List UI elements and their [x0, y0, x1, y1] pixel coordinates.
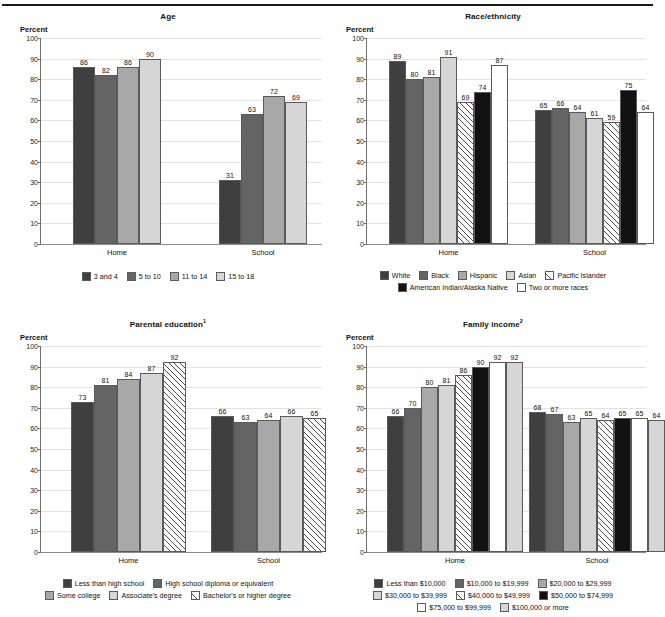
bar: 61 — [586, 118, 603, 244]
legend-label: Bachelor's or higher degree — [203, 591, 291, 600]
legend-item[interactable]: 15 to 18 — [216, 272, 254, 281]
bar-value-label: 68 — [534, 404, 542, 411]
legend-label: $100,000 or more — [512, 603, 569, 612]
legend-item[interactable]: $30,000 to $39,999 — [373, 591, 447, 600]
y-axis-tick-mark — [364, 428, 367, 429]
y-axis-tick-mark — [38, 59, 41, 60]
legend-swatch — [170, 272, 179, 281]
bar-value-label: 89 — [394, 53, 402, 60]
y-axis-tick-label: 90 — [30, 55, 38, 62]
legend-swatch — [545, 271, 554, 280]
legend-swatch — [109, 591, 118, 600]
bar-value-label: 92 — [171, 354, 179, 361]
y-axis-tick-mark — [38, 531, 41, 532]
bar-value-label: 65 — [636, 410, 644, 417]
legend-item[interactable]: 3 and 4 — [82, 272, 118, 281]
x-axis-group-label: School — [583, 248, 606, 257]
bar-value-label: 90 — [146, 51, 154, 58]
bar: 64 — [648, 420, 665, 552]
y-axis-tick-mark — [364, 120, 367, 121]
bar: 69 — [457, 102, 474, 244]
y-axis-tick-mark — [38, 552, 41, 553]
y-axis-tick-label: 20 — [356, 507, 364, 514]
legend-item[interactable]: Black — [419, 271, 449, 280]
legend-item[interactable]: Less than high school — [63, 579, 145, 588]
y-axis-tick-mark — [364, 38, 367, 39]
y-axis-tick-label: 80 — [356, 76, 364, 83]
legend-item[interactable]: $75,000 to $99,999 — [417, 603, 491, 612]
bar-value-label: 65 — [585, 410, 593, 417]
y-axis-tick-label: 10 — [356, 528, 364, 535]
gridline — [367, 346, 646, 347]
y-axis-label-family-income: Percent — [346, 333, 374, 342]
legend-item[interactable]: Hispanic — [458, 271, 498, 280]
bar: 74 — [474, 92, 491, 244]
legend-swatch — [63, 579, 72, 588]
chart-panel-race-ethnicity: Race/ethnicity Percent 01020304050607080… — [334, 10, 652, 305]
y-axis-tick-label: 90 — [356, 363, 364, 370]
y-axis-tick-label: 100 — [352, 343, 364, 350]
legend-item[interactable]: Two or more races — [517, 283, 589, 292]
legend-swatch — [45, 591, 54, 600]
bar: 64 — [257, 420, 280, 552]
y-axis-tick-mark — [38, 162, 41, 163]
y-axis-tick-mark — [38, 244, 41, 245]
legend-parental-education: Less than high schoolHigh school diploma… — [8, 579, 328, 600]
legend-item[interactable]: $40,000 to $49,999 — [456, 591, 530, 600]
y-axis-tick-label: 50 — [356, 138, 364, 145]
legend-item[interactable]: Asian — [506, 271, 536, 280]
y-axis-tick-label: 20 — [356, 199, 364, 206]
gridline — [367, 59, 646, 60]
y-axis-tick-label: 100 — [26, 343, 38, 350]
bar: 82 — [95, 75, 117, 244]
bar: 66 — [387, 416, 404, 552]
bar: 90 — [139, 59, 161, 244]
y-axis-tick-mark — [38, 449, 41, 450]
legend-item[interactable]: $50,000 to $74,999 — [539, 591, 613, 600]
legend-label: Less than $10,000 — [386, 579, 445, 588]
y-axis-tick-mark — [38, 141, 41, 142]
legend-swatch — [191, 591, 200, 600]
bar: 92 — [506, 362, 523, 552]
legend-label: High school diploma or equivalent — [165, 579, 273, 588]
legend-item[interactable]: Less than $10,000 — [374, 579, 445, 588]
legend-item[interactable]: 11 to 14 — [170, 272, 207, 281]
legend-item[interactable]: American Indian/Alaska Native — [398, 283, 508, 292]
legend-item[interactable]: Associate's degree — [109, 591, 182, 600]
legend-swatch — [153, 579, 162, 588]
y-axis-tick-mark — [38, 223, 41, 224]
cut-off-header-text — [60, 0, 600, 3]
y-axis-tick-mark — [364, 203, 367, 204]
y-axis-tick-label: 40 — [30, 158, 38, 165]
bar-value-label: 66 — [288, 408, 296, 415]
y-axis-tick-mark — [364, 346, 367, 347]
legend-item[interactable]: Some college — [45, 591, 101, 600]
bar: 86 — [73, 67, 95, 244]
y-axis-tick-label: 20 — [30, 507, 38, 514]
bar-value-label: 67 — [551, 406, 559, 413]
legend-row: American Indian/Alaska NativeTwo or more… — [398, 283, 588, 292]
y-axis-tick-label: 100 — [26, 35, 38, 42]
legend-label: Asian — [518, 271, 536, 280]
x-axis-group-label: Home — [438, 248, 458, 257]
legend-swatch — [82, 272, 91, 281]
plot-area-family-income: 01020304050607080901006670808186909292Ho… — [366, 346, 646, 553]
legend-item[interactable]: Bachelor's or higher degree — [191, 591, 291, 600]
bar: 69 — [285, 102, 307, 244]
bar: 65 — [535, 110, 552, 244]
y-axis-tick-mark — [38, 203, 41, 204]
legend-item[interactable]: $100,000 or more — [500, 603, 569, 612]
legend-label: 5 to 10 — [139, 272, 161, 281]
legend-item[interactable]: $20,000 to $29,999 — [538, 579, 612, 588]
y-axis-tick-mark — [38, 387, 41, 388]
y-axis-tick-label: 50 — [356, 446, 364, 453]
legend-item[interactable]: White — [380, 271, 410, 280]
legend-item[interactable]: Pacific Islander — [545, 271, 606, 280]
legend-item[interactable]: 5 to 10 — [127, 272, 161, 281]
legend-label: Two or more races — [529, 283, 589, 292]
legend-item[interactable]: $10,000 to $19,999 — [455, 579, 529, 588]
legend-item[interactable]: High school diploma or equivalent — [153, 579, 273, 588]
y-axis-label-race: Percent — [346, 25, 374, 34]
bar: 72 — [263, 96, 285, 244]
